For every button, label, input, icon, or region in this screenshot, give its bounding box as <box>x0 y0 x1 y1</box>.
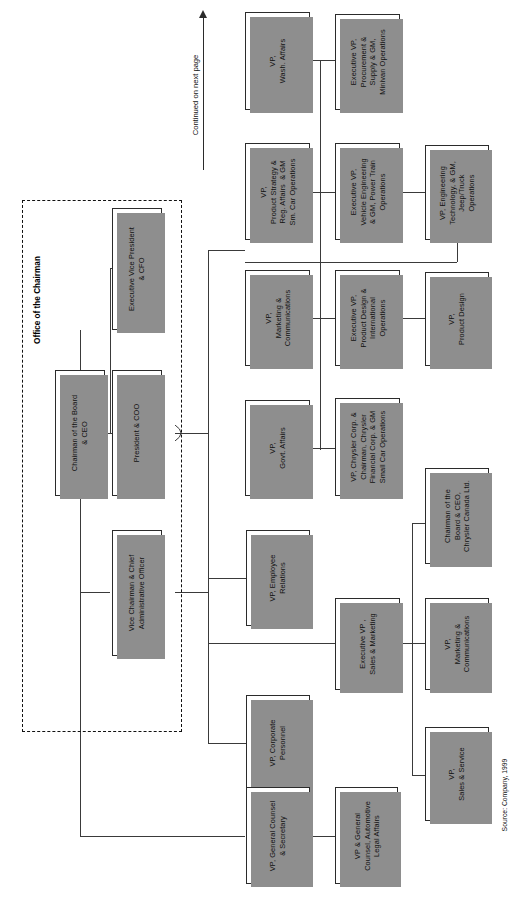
node-executive-vp-sales-marketing[interactable]: Executive VP , Sales & Marketing <box>335 598 400 690</box>
source-note: Source: Company, 1999 <box>501 759 508 832</box>
node-label: VP, Engineering Technology, & GM, Jeep/T… <box>438 161 476 225</box>
node-vp-marketing-communications-corporate[interactable]: VP, Marketing & Communications <box>245 270 310 366</box>
connector-salesmkt-child-bus <box>412 523 413 775</box>
node-vp-wash-affairs[interactable]: VP, Wash. Affairs <box>245 12 310 110</box>
node-executive-vp-product-design-international[interactable]: Executive VP, Product Design & Internati… <box>335 270 400 366</box>
node-label: VP, Wash. Affairs <box>268 39 287 83</box>
connector-staff-column-bus <box>208 433 209 743</box>
connector-salesmkt-to-canada <box>412 523 425 524</box>
node-chairman-ceo-chrysler-canada[interactable]: Chairman of the Board & CEO, Chrysler Ca… <box>425 468 489 564</box>
connector-jeeptruck-drop <box>457 240 458 262</box>
node-vp-product-strategy-reg-affairs-small-car[interactable]: VP, Product Strategy & Reg. Affairs & GM… <box>245 143 310 240</box>
node-label: VP, Marketing & Communications <box>263 290 292 346</box>
node-label: VP, Marketing & Communications <box>443 616 472 672</box>
connector-salesmkt-to-sales-service <box>412 775 425 776</box>
connector-counsel-to-automotive <box>310 836 335 837</box>
connector-wash-to-procurement <box>320 60 335 61</box>
connector-trunk-to-row2 <box>208 250 245 251</box>
node-label: VP & General Counsel, Automotive Legal A… <box>352 801 381 871</box>
node-label: VP, Sales & Service <box>447 747 466 801</box>
node-chairman-of-the-board-ceo[interactable]: Chairman of the Board & CEO <box>55 370 105 496</box>
connector-cfo-to-counsel <box>80 836 245 837</box>
node-label: VP, Employee Relations <box>268 554 287 601</box>
node-label: President & COO <box>132 404 142 463</box>
connector-vehicleeng-to-jeeptruck <box>400 192 425 193</box>
node-vp-chrysler-corp-financial-small-car[interactable]: VP, Chrysler Corp. & Chairman, Chrysler … <box>335 398 400 496</box>
node-label: VP, Product Strategy & Reg. Affairs & GM… <box>258 158 296 225</box>
connector-staff-to-sales-marketing <box>208 643 335 644</box>
node-label: Executive VP, Procurement & Supply & GM,… <box>348 29 386 94</box>
node-executive-vice-president-cfo[interactable]: Executive Vice President & CFO <box>112 208 162 330</box>
node-vp-govt-affairs[interactable]: VP, Govt. Affairs <box>245 400 310 496</box>
connector-vp-column-bus <box>320 60 321 450</box>
node-vp-general-counsel-secretary[interactable]: VP, General Counsel & Secretary <box>246 787 310 884</box>
node-label: VP, Govt. Affairs <box>268 427 287 468</box>
node-label: Vice Chairman & Chief Administrative Off… <box>127 555 146 632</box>
connector-stub-employee-relations <box>208 578 246 579</box>
connector-stub-corporate-personnel <box>208 743 246 744</box>
line-jump-arc <box>174 425 188 441</box>
connector-row2-bracket <box>245 262 457 263</box>
node-label: Executive VP, Vehicle Engineering & GM, … <box>348 158 386 225</box>
node-label: Executive VP , Sales & Marketing <box>358 613 377 675</box>
node-vp-employee-relations[interactable]: VP, Employee Relations <box>246 530 310 626</box>
node-label: Chairman of the Board & CEO, Chrysler Ca… <box>443 480 472 552</box>
node-label: Executive VP, Product Design & Internati… <box>348 288 386 347</box>
node-executive-vp-procurement-supply-minivan[interactable]: Executive VP, Procurement & Supply & GM,… <box>335 14 400 110</box>
node-label: VP, Product Design <box>447 293 466 345</box>
connector-marketing-to-product-design <box>320 318 335 319</box>
continued-on-next-page-label: Continued on next page <box>191 55 200 136</box>
node-vp-engineering-technology-jeep-truck[interactable]: VP, Engineering Technology, & GM, Jeep/T… <box>425 145 489 240</box>
connector-productdesign-to-vpdesign <box>400 318 425 319</box>
node-vp-corporate-personnel[interactable]: VP, Corporate Personnel <box>246 695 310 791</box>
node-label: Executive Vice President & CFO <box>127 227 146 311</box>
node-vice-chairman-chief-administrative-officer[interactable]: Vice Chairman & Chief Administrative Off… <box>112 530 162 656</box>
node-vp-general-counsel-automotive-legal-affairs[interactable]: VP & General Counsel, Automotive Legal A… <box>335 787 398 884</box>
office-of-the-chairman-title: Office of the Chairman <box>33 256 42 344</box>
up-arrow-icon <box>199 10 207 18</box>
node-label: Chairman of the Board & CEO <box>70 395 89 471</box>
node-vp-sales-service[interactable]: VP, Sales & Service <box>425 727 489 821</box>
connector-president-trunk-v <box>208 250 209 434</box>
node-vp-product-design[interactable]: VP, Product Design <box>425 272 489 366</box>
node-vp-marketing-communications-sales[interactable]: VP, Marketing & Communications <box>425 598 489 690</box>
org-chart-page: Office of the Chairman <box>0 0 520 906</box>
node-label: VP, General Counsel & Secretary <box>268 800 287 870</box>
node-label: VP, Chrysler Corp. & Chairman, Chrysler … <box>348 411 386 484</box>
connector-govt-to-chrysler-corp <box>320 448 335 449</box>
node-label: VP, Corporate Personnel <box>268 719 287 766</box>
node-president-coo[interactable]: President & COO <box>112 370 162 496</box>
continued-arrow-line <box>203 18 204 170</box>
node-executive-vp-vehicle-engineering-powertrain[interactable]: Executive VP, Vehicle Engineering & GM, … <box>335 143 400 240</box>
connector-product-strategy-to-vehicle-eng <box>320 192 335 193</box>
